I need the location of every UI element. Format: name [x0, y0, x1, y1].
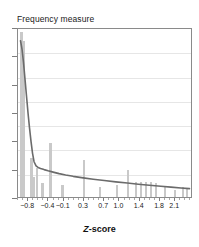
x-minor-tick: [32, 198, 33, 200]
x-tick: [63, 198, 64, 201]
x-tick: [159, 198, 160, 201]
x-minor-tick: [113, 198, 114, 200]
chart-title: Frequency measure: [17, 14, 94, 24]
x-minor-tick: [154, 198, 155, 200]
x-minor-tick: [108, 198, 109, 200]
x-minor-tick: [58, 198, 59, 200]
x-axis-title-rest: -score: [89, 224, 116, 234]
x-minor-tick: [124, 198, 125, 200]
x-minor-tick: [88, 198, 89, 200]
x-minor-tick: [184, 198, 185, 200]
x-axis-tick-labels: −0.8−0.4−0.10.30.71.01.41.82.1: [17, 202, 192, 214]
x-minor-tick: [93, 198, 94, 200]
chart-figure: Frequency measure −0.8−0.4−0.10.30.71.01…: [0, 0, 199, 247]
x-tick: [83, 198, 84, 201]
x-minor-tick: [68, 198, 69, 200]
x-tick: [27, 198, 28, 201]
x-minor-tick: [42, 198, 43, 200]
x-tick-label: 2.1: [169, 202, 179, 209]
x-tick: [174, 198, 175, 201]
x-tick: [139, 198, 140, 201]
x-minor-tick: [98, 198, 99, 200]
x-minor-tick: [134, 198, 135, 200]
x-minor-tick: [17, 198, 18, 200]
x-tick: [118, 198, 119, 201]
x-minor-tick: [179, 198, 180, 200]
x-tick-label: −0.8: [20, 202, 34, 209]
x-axis-title: Z-score: [0, 224, 199, 234]
x-tick: [47, 198, 48, 201]
x-minor-tick: [189, 198, 190, 200]
x-minor-tick: [129, 198, 130, 200]
x-tick-label: 1.0: [114, 202, 124, 209]
x-tick-label: −0.4: [41, 202, 55, 209]
x-tick-label: 0.3: [78, 202, 88, 209]
x-tick-label: 1.4: [134, 202, 144, 209]
x-minor-tick: [164, 198, 165, 200]
x-minor-tick: [144, 198, 145, 200]
x-tick-label: 0.7: [98, 202, 108, 209]
plot-area: [17, 28, 192, 198]
frequency-curve: [18, 29, 191, 197]
frequency-curve-svg: [18, 29, 191, 197]
x-minor-tick: [53, 198, 54, 200]
x-minor-tick: [37, 198, 38, 200]
x-minor-tick: [149, 198, 150, 200]
x-tick: [103, 198, 104, 201]
x-tick-label: −0.1: [56, 202, 70, 209]
x-minor-tick: [73, 198, 74, 200]
x-minor-tick: [22, 198, 23, 200]
curve-polyline: [21, 41, 190, 189]
x-minor-tick: [78, 198, 79, 200]
x-tick-label: 1.8: [154, 202, 164, 209]
x-minor-tick: [169, 198, 170, 200]
